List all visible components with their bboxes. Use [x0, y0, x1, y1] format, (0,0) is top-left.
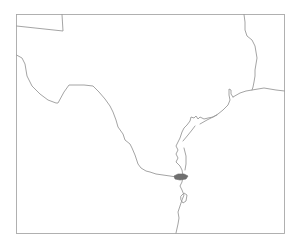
northwest-panhandle-boundary [17, 15, 64, 32]
barrier-island-matagorda [183, 126, 195, 141]
map-canvas [0, 0, 297, 245]
highlighted-lagoon [174, 174, 188, 180]
barrier-island-padre [184, 148, 186, 170]
rio-grande-border [17, 55, 183, 177]
gulf-coastline [176, 89, 233, 233]
outline-map [0, 0, 297, 245]
map-frame [17, 15, 285, 234]
sabine-river-border [244, 15, 257, 91]
barrier-island-galveston [200, 115, 217, 124]
louisiana-coast-line [233, 88, 285, 97]
